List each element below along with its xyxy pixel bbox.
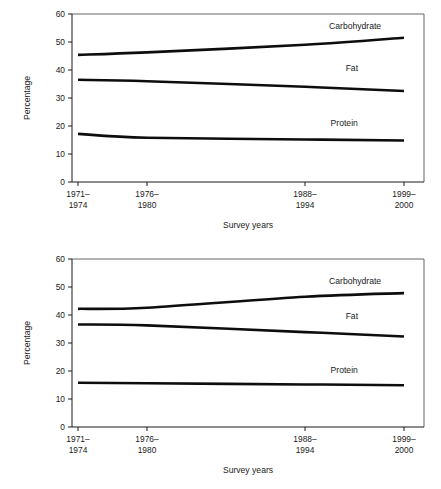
x-tick-label-line2: 1974: [69, 445, 88, 455]
series-label-carbohydrate: Carbohydrate: [329, 21, 381, 31]
series-line-protein: [78, 134, 404, 141]
y-tick-label: 20: [56, 121, 66, 131]
y-tick-label: 40: [56, 65, 66, 75]
series-label-protein: Protein: [331, 365, 358, 375]
y-tick-label: 60: [56, 9, 66, 19]
x-tick-label-line1: 1971–: [66, 189, 90, 199]
series-label-fat: Fat: [346, 311, 359, 321]
y-tick-label: 50: [56, 282, 66, 292]
x-tick-label-line1: 1988–: [293, 434, 317, 444]
y-tick-label: 30: [56, 338, 66, 348]
x-tick-label-line2: 1980: [138, 445, 157, 455]
x-tick-label-line1: 1999–: [392, 434, 416, 444]
y-axis-title: Percentage: [22, 76, 32, 120]
x-tick-label-line1: 1976–: [135, 434, 159, 444]
chart-bottom-canvas: 0102030405060Percentage1971–19741976–198…: [0, 245, 441, 489]
series-label-protein: Protein: [331, 118, 358, 128]
x-tick-label-line1: 1988–: [293, 189, 317, 199]
series-label-carbohydrate: Carbohydrate: [329, 276, 381, 286]
chart-top-canvas: 0102030405060Percentage1971–19741976–198…: [0, 0, 441, 244]
series-line-carbohydrate: [78, 293, 404, 309]
series-label-fat: Fat: [346, 63, 359, 73]
series-line-carbohydrate: [78, 38, 404, 55]
x-tick-label-line1: 1999–: [392, 189, 416, 199]
x-tick-label-line2: 1980: [138, 200, 157, 210]
y-tick-label: 20: [56, 366, 66, 376]
y-tick-label: 10: [56, 394, 66, 404]
x-tick-label-line2: 2000: [395, 445, 414, 455]
y-tick-label: 40: [56, 310, 66, 320]
chart-top: 0102030405060Percentage1971–19741976–198…: [0, 0, 441, 244]
x-tick-label-line2: 2000: [395, 200, 414, 210]
y-tick-label: 10: [56, 149, 66, 159]
series-line-protein: [78, 383, 404, 386]
y-axis-title: Percentage: [22, 321, 32, 365]
chart-bottom: 0102030405060Percentage1971–19741976–198…: [0, 245, 441, 489]
y-tick-label: 30: [56, 93, 66, 103]
x-tick-label-line1: 1971–: [66, 434, 90, 444]
y-tick-label: 60: [56, 254, 66, 264]
x-tick-label-line1: 1976–: [135, 189, 159, 199]
series-line-fat: [78, 80, 404, 91]
y-tick-label: 0: [60, 177, 65, 187]
x-tick-label-line2: 1994: [296, 200, 315, 210]
x-tick-label-line2: 1974: [69, 200, 88, 210]
x-axis-title: Survey years: [223, 465, 273, 475]
y-tick-label: 0: [60, 422, 65, 432]
x-axis-title: Survey years: [223, 220, 273, 230]
series-line-fat: [78, 325, 404, 337]
x-tick-label-line2: 1994: [296, 445, 315, 455]
figure-two-line-charts: 0102030405060Percentage1971–19741976–198…: [0, 0, 441, 489]
y-tick-label: 50: [56, 37, 66, 47]
